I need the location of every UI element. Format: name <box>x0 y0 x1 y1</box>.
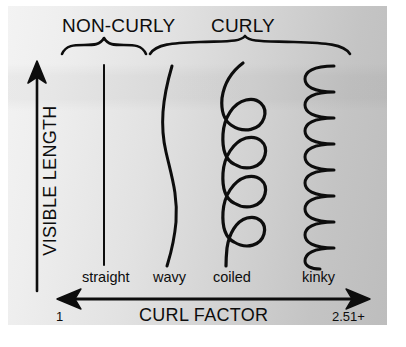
category-label-straight: straight <box>82 270 130 285</box>
brace-curly <box>150 36 350 54</box>
category-label-coiled: coiled <box>213 270 251 285</box>
category-label-kinky: kinky <box>302 270 335 285</box>
y-axis-label: VISIBLE LENGTH <box>40 86 61 276</box>
curl-factor-figure: NON-CURLY CURLY straight wavy coiled kin… <box>0 0 406 347</box>
group-label-non-curly: NON-CURLY <box>62 16 175 35</box>
hair-shape-wavy <box>163 66 177 266</box>
group-label-curly: CURLY <box>211 16 275 35</box>
x-axis-min-label: 1 <box>56 310 63 323</box>
brace-non-curly <box>62 38 146 54</box>
x-axis-label: CURL FACTOR <box>139 306 268 324</box>
x-axis-max-label: 2.51+ <box>332 310 365 323</box>
hair-shape-coiled <box>222 63 266 266</box>
hair-shape-kinky <box>305 66 334 269</box>
figure-artwork <box>0 0 406 347</box>
category-label-wavy: wavy <box>153 270 186 285</box>
